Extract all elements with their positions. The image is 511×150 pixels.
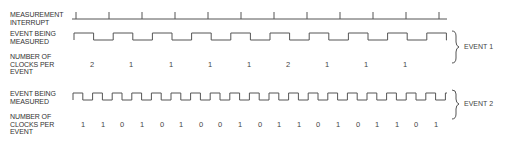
clock-count-value: 1 xyxy=(101,120,105,129)
clock-count-value: 1 xyxy=(325,60,329,69)
clock-count-value: 1 xyxy=(247,60,251,69)
event-1-brace-icon xyxy=(452,31,459,63)
event-1-waveform xyxy=(74,33,447,40)
clock-count-value: 2 xyxy=(90,60,94,69)
clock-count-value: 1 xyxy=(277,120,281,129)
clock-count-value: 1 xyxy=(375,120,379,129)
clock-count-value: 1 xyxy=(297,120,301,129)
clock-count-value: 0 xyxy=(199,120,203,129)
measurement-interrupt-signal xyxy=(72,12,447,19)
clock-count-value: 1 xyxy=(140,120,144,129)
clock-count-value: 0 xyxy=(120,120,124,129)
clock-count-value: 1 xyxy=(208,60,212,69)
clock-count-value: 1 xyxy=(81,120,85,129)
clock-count-value: 0 xyxy=(160,120,164,129)
clock-count-value: 2 xyxy=(286,60,290,69)
clock-count-value: 0 xyxy=(316,120,320,129)
clock-count-value: 1 xyxy=(129,60,133,69)
event-2-waveform xyxy=(73,93,447,100)
event-2-label: EVENT 2 xyxy=(464,100,493,107)
clock-count-value: 0 xyxy=(258,120,262,129)
event-2-brace-icon xyxy=(452,90,459,119)
clock-count-value: 0 xyxy=(356,120,360,129)
clock-count-value: 1 xyxy=(434,120,438,129)
event-1-label: EVENT 1 xyxy=(464,43,493,50)
clock-count-value: 1 xyxy=(403,60,407,69)
clock-count-value: 1 xyxy=(238,120,242,129)
clock-count-value: 0 xyxy=(414,120,418,129)
clock-count-value: 1 xyxy=(395,120,399,129)
clock-count-value: 1 xyxy=(336,120,340,129)
clock-count-value: 1 xyxy=(179,120,183,129)
clock-count-value: 1 xyxy=(169,60,173,69)
clock-count-value: 1 xyxy=(364,60,368,69)
clock-count-value: 0 xyxy=(218,120,222,129)
